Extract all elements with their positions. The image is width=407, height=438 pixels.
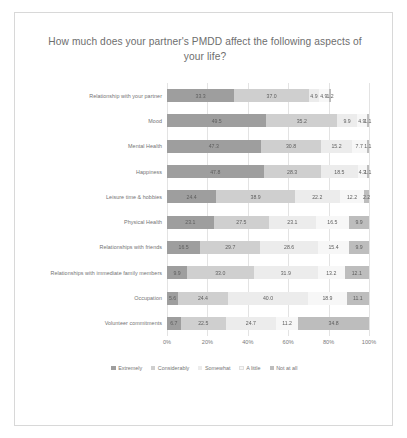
bar-value-label: 22.2 — [312, 194, 322, 200]
bar-segment: 27.5 — [214, 216, 270, 229]
bar-segment: 18.9 — [308, 292, 346, 305]
plot-area: Relationship with your partner33.337.04.… — [15, 83, 394, 373]
bar-segment: 16.5 — [167, 241, 200, 254]
bar-segment: 31.9 — [254, 266, 318, 279]
bar-value-label: 24.4 — [198, 295, 208, 301]
chart-title: How much does your partner's PMDD affect… — [43, 35, 367, 64]
stacked-bar: 49.535.29.94.91.1 — [167, 114, 369, 127]
x-axis-tick: 20% — [202, 339, 213, 345]
legend-label: A little — [246, 365, 260, 371]
bar-segment: 5.6 — [167, 292, 178, 305]
bar-segment: 28.6 — [260, 241, 318, 254]
bar-rows: Relationship with your partner33.337.04.… — [15, 83, 394, 336]
x-axis-tick: 40% — [242, 339, 253, 345]
category-label: Mood — [15, 118, 167, 124]
bar-value-label: 4.9 — [310, 93, 317, 99]
bar-value-label: 15.4 — [328, 244, 338, 250]
bar-value-label: 24.7 — [246, 320, 256, 326]
bar-segment: 15.2 — [321, 140, 351, 153]
bar-value-label: 47.3 — [209, 143, 219, 149]
bar-segment: 47.3 — [167, 140, 261, 153]
bar-segment: 9.9 — [349, 241, 369, 254]
legend-item[interactable]: Extremely — [111, 365, 142, 371]
bar-value-label: 1.1 — [364, 118, 371, 124]
bar-value-label: 12.2 — [347, 194, 357, 200]
bar-segment: 15.4 — [318, 241, 349, 254]
bar-value-label: 49.5 — [212, 118, 222, 124]
category-label: Relationships with immediate family memb… — [15, 270, 167, 276]
bar-value-label: 9.9 — [173, 270, 180, 276]
legend-label: Not at all — [276, 365, 297, 371]
stacked-bar: 33.337.04.94.91.2 — [167, 89, 369, 102]
bar-value-label: 34.8 — [329, 320, 339, 326]
category-label: Physical Health — [15, 219, 167, 225]
bar-row: Relationships with friends16.529.728.615… — [15, 235, 394, 260]
bar-segment: 9.9 — [337, 114, 357, 127]
bar-segment: 9.9 — [349, 216, 369, 229]
stacked-bar: 24.438.922.212.22.2 — [167, 190, 369, 203]
bar-value-label: 30.8 — [286, 143, 296, 149]
legend-item[interactable]: A little — [239, 365, 260, 371]
bar-segment: 47.8 — [167, 165, 264, 178]
bar-segment: 29.7 — [200, 241, 260, 254]
bar-segment: 1.2 — [329, 89, 331, 102]
stacked-bar: 47.330.815.27.71.1 — [167, 140, 369, 153]
bar-segment: 12.2 — [340, 190, 365, 203]
category-label: Leisure time & hobbies — [15, 194, 167, 200]
category-label: Relationships with friends — [15, 244, 167, 250]
legend-item[interactable]: Somewhat — [198, 365, 230, 371]
bar-value-label: 23.1 — [287, 219, 297, 225]
bar-value-label: 40.0 — [263, 295, 273, 301]
bar-value-label: 5.6 — [169, 295, 176, 301]
bar-segment: 1.1 — [367, 165, 369, 178]
bar-value-label: 35.2 — [297, 118, 307, 124]
bar-segment: 33.3 — [167, 89, 234, 102]
stacked-bar: 16.529.728.615.49.9 — [167, 241, 369, 254]
bar-segment: 2.2 — [364, 190, 368, 203]
bar-segment: 24.7 — [226, 317, 276, 330]
bar-row: Occupation5.624.440.018.911.1 — [15, 285, 394, 310]
stacked-bar: 6.722.524.711.234.8 — [167, 317, 369, 330]
bar-row: Volunteer commitments6.722.524.711.234.8 — [15, 311, 394, 336]
bar-value-label: 9.9 — [355, 244, 362, 250]
bar-value-label: 38.9 — [251, 194, 261, 200]
bar-row: Physical Health23.127.523.116.59.9 — [15, 209, 394, 234]
bar-row: Happiness47.828.318.54.31.1 — [15, 159, 394, 184]
legend-item[interactable]: Not at all — [270, 365, 298, 371]
bar-segment: 34.8 — [298, 317, 368, 330]
bar-value-label: 9.9 — [355, 219, 362, 225]
category-label: Happiness — [15, 169, 167, 175]
x-axis-tick: 100% — [362, 339, 376, 345]
bar-value-label: 6.7 — [170, 320, 177, 326]
bar-segment: 13.2 — [318, 266, 345, 279]
bar-segment: 11.1 — [347, 292, 369, 305]
bar-row: Mental Health47.330.815.27.71.1 — [15, 134, 394, 159]
bar-segment: 6.7 — [167, 317, 181, 330]
bar-segment: 18.5 — [321, 165, 358, 178]
bar-value-label: 16.5 — [327, 219, 337, 225]
legend-item[interactable]: Considerably — [151, 365, 189, 371]
category-label: Occupation — [15, 295, 167, 301]
chart-card: How much does your partner's PMDD affect… — [14, 12, 393, 426]
bar-value-label: 11.2 — [282, 320, 292, 326]
bar-value-label: 27.5 — [236, 219, 246, 225]
bar-segment: 24.4 — [167, 190, 216, 203]
bar-segment: 11.2 — [276, 317, 299, 330]
bar-value-label: 1.1 — [364, 169, 371, 175]
bar-segment: 35.2 — [266, 114, 337, 127]
bar-value-label: 1.1 — [364, 143, 371, 149]
stacked-bar: 5.624.440.018.911.1 — [167, 292, 369, 305]
bar-value-label: 33.3 — [196, 93, 206, 99]
bar-segment: 16.5 — [316, 216, 349, 229]
x-axis: 0%20%40%60%80%100% — [167, 339, 369, 351]
bar-value-label: 9.9 — [343, 118, 350, 124]
bar-segment: 33.0 — [187, 266, 254, 279]
stacked-bar: 9.933.031.913.212.1 — [167, 266, 369, 279]
bar-value-label: 37.0 — [267, 93, 277, 99]
bar-row: Leisure time & hobbies24.438.922.212.22.… — [15, 184, 394, 209]
bar-value-label: 47.8 — [210, 169, 220, 175]
category-label: Relationship with your partner — [15, 93, 167, 99]
category-label: Volunteer commitments — [15, 320, 167, 326]
bar-value-label: 16.5 — [179, 244, 189, 250]
bar-segment: 1.1 — [367, 140, 369, 153]
